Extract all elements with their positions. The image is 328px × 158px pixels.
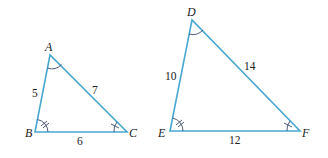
angle-d-arc	[189, 30, 203, 35]
triangle-def: D E F 10 14 12	[157, 5, 310, 146]
side-label-df: 14	[244, 60, 256, 72]
vertex-label-c: C	[129, 126, 138, 140]
triangle-def-edges	[170, 20, 300, 131]
triangle-abc: A B C 5 7 6	[25, 40, 138, 147]
vertex-label-a: A	[44, 40, 53, 54]
side-label-ef: 12	[229, 134, 241, 146]
vertex-label-f: F	[301, 126, 310, 140]
side-label-ac: 7	[92, 84, 98, 96]
side-label-ab: 5	[32, 87, 38, 99]
side-label-de: 10	[165, 70, 177, 82]
vertex-label-e: E	[157, 126, 166, 140]
side-label-bc: 6	[77, 135, 83, 147]
similar-triangles-diagram: A B C 5 7 6 D E F 10 14 12	[0, 0, 328, 158]
vertex-label-d: D	[186, 5, 196, 19]
vertex-label-b: B	[25, 126, 33, 140]
triangle-abc-edges	[35, 55, 127, 132]
